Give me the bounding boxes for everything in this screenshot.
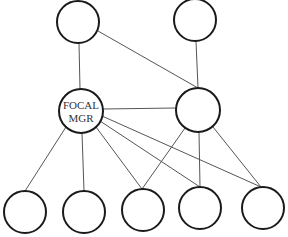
- edge-mid-right-to-bottom-4: [199, 132, 200, 187]
- node-bottom-1: [4, 191, 46, 233]
- node-circle: [57, 1, 99, 43]
- node-circle: [122, 189, 164, 231]
- node-focal-mgr: FOCALMGR: [59, 89, 103, 133]
- edge-focal-mgr-to-bottom-2: [82, 133, 84, 191]
- node-bottom-5: [242, 187, 284, 229]
- node-label: MGR: [68, 112, 94, 124]
- node-bottom-2: [63, 191, 105, 233]
- edge-mid-right-to-bottom-5: [213, 127, 261, 187]
- edge-focal-mgr-to-bottom-1: [25, 127, 66, 191]
- node-top-right: [174, 0, 216, 41]
- edge-top-right-to-mid-right: [196, 41, 198, 88]
- node-label: FOCAL: [63, 99, 99, 111]
- nodes-group: FOCALMGR: [4, 0, 284, 233]
- node-bottom-3: [122, 189, 164, 231]
- edge-top-left-to-mid-right: [98, 31, 198, 88]
- node-mid-right: [176, 88, 220, 132]
- node-top-left: [57, 1, 99, 43]
- edge-focal-mgr-to-bottom-3: [96, 127, 142, 189]
- node-circle: [174, 0, 216, 41]
- node-circle: [176, 88, 220, 132]
- edge-focal-mgr-to-mid-right: [103, 108, 176, 109]
- edge-top-left-to-focal-mgr: [79, 43, 80, 89]
- node-bottom-4: [179, 187, 221, 229]
- edge-focal-mgr-to-bottom-5: [102, 116, 261, 187]
- node-circle: [63, 191, 105, 233]
- network-diagram: FOCALMGR: [0, 0, 288, 237]
- node-circle: [242, 187, 284, 229]
- node-circle: [4, 191, 46, 233]
- node-circle: [179, 187, 221, 229]
